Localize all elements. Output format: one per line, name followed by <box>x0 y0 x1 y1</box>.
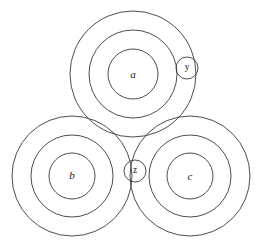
nested-circles-diagram: a b c y z <box>0 0 271 247</box>
point-z[interactable]: z <box>124 160 146 182</box>
group-b-label: b <box>69 169 75 181</box>
group-c-label: c <box>188 170 193 182</box>
point-y-label: y <box>185 62 190 72</box>
group-a-label: a <box>130 68 136 80</box>
point-z-label: z <box>133 165 137 175</box>
group-c[interactable]: c <box>130 116 250 236</box>
point-y[interactable]: y <box>176 57 198 79</box>
diagram-canvas: a b c y z <box>0 0 271 247</box>
